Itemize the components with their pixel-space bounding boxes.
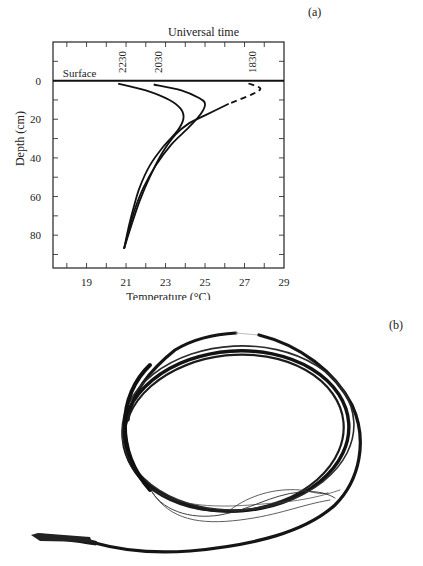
- thermocouple-probe-photo: [0, 0, 423, 566]
- cable-bare-segment: [236, 333, 258, 335]
- lead-wire-2: [152, 492, 330, 522]
- lead-wire-3: [230, 490, 328, 510]
- cable-outer-top-left: [128, 333, 236, 420]
- probe-tip: [31, 533, 92, 542]
